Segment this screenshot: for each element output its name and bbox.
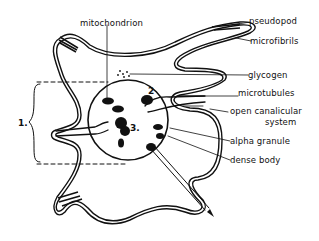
region-number-1: 1. <box>18 118 28 128</box>
mitochondrion-2 <box>112 106 124 113</box>
label-mitochondrion: mitochondrion <box>80 19 143 28</box>
label-glycogen: glycogen <box>248 71 287 80</box>
label-alpha-granule: alpha granule <box>230 137 290 146</box>
mitochondrion-1 <box>102 98 114 105</box>
region-number-3: 3. <box>130 123 140 133</box>
label-microtubules: microtubules <box>238 89 295 98</box>
label-pseudopod: pseudopod <box>249 17 297 26</box>
alpha-granule <box>153 124 163 130</box>
granule-2 <box>141 95 153 105</box>
label-microfibrils: microfibrils <box>250 37 298 46</box>
label-open-canalicular-system: system <box>265 118 296 127</box>
granule-3b <box>120 126 130 136</box>
cell-membrane <box>52 22 256 224</box>
region-number-2: 2 <box>148 86 154 96</box>
label-dense-body: dense body <box>230 156 280 165</box>
dense-body <box>156 133 164 139</box>
brace <box>29 84 40 162</box>
label-open-canalicular: open canalicular <box>230 107 302 116</box>
